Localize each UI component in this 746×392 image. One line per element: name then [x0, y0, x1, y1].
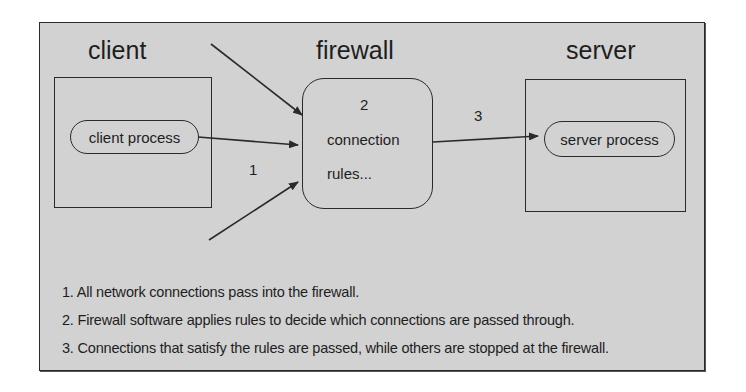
- arrow-firewall-to-server: [433, 136, 538, 142]
- note-1: 1. All network connections pass into the…: [62, 282, 609, 310]
- arrow-bottom-into-firewall: [209, 182, 298, 240]
- arrow-client-to-firewall: [198, 137, 298, 145]
- notes-list: 1. All network connections pass into the…: [62, 282, 609, 366]
- arrow-top-into-firewall: [211, 44, 302, 115]
- note-3: 3. Connections that satisfy the rules ar…: [62, 338, 609, 366]
- note-2: 2. Firewall software applies rules to de…: [62, 310, 609, 338]
